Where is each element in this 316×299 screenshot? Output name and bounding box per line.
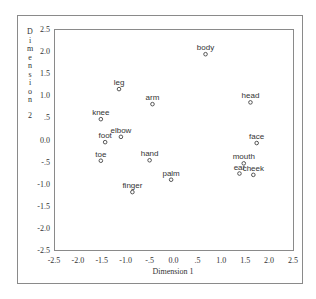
x-tick-label: -.5 [145,256,154,265]
y-axis-title: Dimension2 [27,27,34,120]
x-tick-label: 0.0 [169,256,179,265]
y-tick-label: 0.0 [40,136,50,145]
y-tick-label: .5 [44,113,50,122]
x-tick-label: .5 [194,256,200,265]
mds-scatter-chart: Dimension2 Dimension 1 -2.5-2.0-1.5-1.0-… [0,0,316,299]
point-label: body [197,43,214,52]
x-tick-labels: -2.5-2.0-1.5-1.0-.50.0.51.01.52.02.5 [48,256,298,265]
x-tick-label: 2.0 [264,256,274,265]
y-axis-title-char: n [28,95,32,104]
y-tick-label: 1.5 [40,69,50,78]
y-tick-label: -1.5 [37,202,50,211]
y-tick-label: -2.0 [37,224,50,233]
x-tick-label: 2.5 [288,256,298,265]
point-label: head [242,91,260,100]
point-label: elbow [110,126,131,135]
y-tick-label: -.5 [41,158,50,167]
x-tick-label: 1.0 [216,256,226,265]
point-label: knee [92,108,110,117]
y-tick-label: 2.5 [40,25,50,34]
x-axis-title: Dimension 1 [152,267,193,276]
y-tick-label: 2.0 [40,47,50,56]
point-label: arm [146,93,160,102]
point-label: cheek [243,164,265,173]
point-label: foot [98,131,112,140]
x-tick-label: 1.5 [240,256,250,265]
point-label: leg [114,78,125,87]
y-tick-label: -2.5 [37,246,50,255]
x-tick-label: -2.5 [48,256,61,265]
y-tick-labels: 2.52.01.51.0.50.0-.5-1.0-1.5-2.0-2.5 [37,25,50,255]
point-label: mouth [233,152,255,161]
point-label: hand [141,149,159,158]
x-tick-label: -2.0 [72,256,85,265]
point-label: toe [95,150,107,159]
point-label: finger [122,181,142,190]
x-tick-label: -1.5 [95,256,108,265]
point-label: face [249,132,265,141]
y-tick-label: -1.0 [37,180,50,189]
x-tick-label: -1.0 [119,256,132,265]
point-label: palm [162,169,180,178]
y-tick-label: 1.0 [40,91,50,100]
y-axis-title-number: 2 [28,111,32,120]
